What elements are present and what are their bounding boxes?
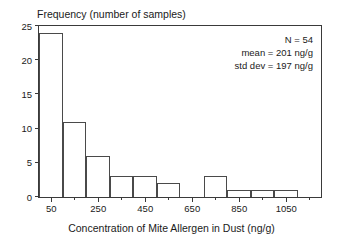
x-axis-tick-minor: [309, 197, 310, 200]
x-axis-tick-label: 650: [184, 203, 200, 214]
x-axis-tick: 1050: [286, 197, 287, 202]
histogram-bar: [63, 122, 87, 197]
y-axis-tick-label: 10: [21, 123, 32, 134]
histogram-bar: [204, 176, 228, 197]
x-axis-tick: 450: [145, 197, 146, 202]
x-axis-tick-minor: [74, 197, 75, 200]
y-axis-tick-label: 15: [21, 88, 32, 99]
x-axis-tick-label: 450: [137, 203, 153, 214]
plot-area: 0510152025 502504506508501050 N = 54 mea…: [38, 25, 322, 198]
x-axis-tick-minor: [262, 197, 263, 200]
stat-mean: mean = 201 ng/g: [235, 46, 313, 59]
x-axis-tick-label: 850: [231, 203, 247, 214]
y-axis-title: Frequency (number of samples): [37, 8, 186, 20]
x-axis-tick: 650: [192, 197, 193, 202]
x-axis-tick-minor: [121, 197, 122, 200]
stats-annotation: N = 54 mean = 201 ng/g std dev = 197 ng/…: [235, 33, 313, 72]
x-axis-tick-label: 1050: [276, 203, 297, 214]
histogram-bar: [251, 190, 275, 197]
histogram-bar: [227, 190, 251, 197]
x-axis-title: Concentration of Mite Allergen in Dust (…: [0, 222, 343, 234]
x-axis-tick-minor: [168, 197, 169, 200]
stat-std-dev: std dev = 197 ng/g: [235, 59, 313, 72]
y-axis-tick-label: 20: [21, 54, 32, 65]
x-axis-tick-label: 250: [90, 203, 106, 214]
x-axis-tick: 50: [51, 197, 52, 202]
histogram-figure: Frequency (number of samples) 0510152025…: [0, 0, 343, 243]
histogram-bar: [157, 183, 181, 197]
x-axis-tick: 850: [239, 197, 240, 202]
histogram-bar: [39, 33, 63, 197]
x-axis-tick-label: 50: [46, 203, 57, 214]
y-axis-tick-label: 5: [27, 157, 32, 168]
x-axis-tick-minor: [215, 197, 216, 200]
histogram-bar: [110, 176, 134, 197]
histogram-bar: [86, 156, 110, 197]
histogram-bar: [274, 190, 298, 197]
stat-n: N = 54: [235, 33, 313, 46]
histogram-bar: [133, 176, 157, 197]
x-axis-tick: 250: [98, 197, 99, 202]
y-axis-tick-label: 0: [27, 191, 32, 202]
y-axis-tick-label: 25: [21, 20, 32, 31]
